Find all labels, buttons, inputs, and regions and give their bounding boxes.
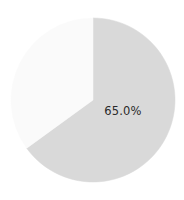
pie-slice-major-label: 65.0% (104, 104, 142, 118)
pie-chart-canvas: 65.0% (0, 0, 184, 200)
pie-labels-group: 65.0% (104, 104, 142, 118)
pie-chart-figure: 65.0% (0, 0, 184, 200)
pie-slices-group (11, 18, 175, 182)
